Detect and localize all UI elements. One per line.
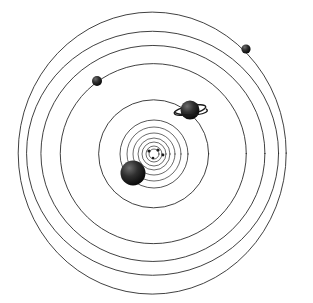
inner-planet-3 bbox=[162, 154, 165, 157]
inner-planet-2 bbox=[156, 148, 159, 151]
solar-system-diagram bbox=[0, 0, 313, 303]
inner-planet-1-body bbox=[147, 149, 150, 152]
uranus bbox=[92, 76, 102, 86]
inner-planet-4 bbox=[152, 157, 155, 160]
neptune-body bbox=[241, 44, 250, 53]
inner-planet-1 bbox=[147, 149, 150, 152]
orbital-diagram-canvas bbox=[0, 0, 313, 303]
jupiter bbox=[121, 161, 146, 186]
inner-planet-3-body bbox=[162, 154, 165, 157]
saturn-body bbox=[181, 101, 200, 120]
inner-planet-2-body bbox=[156, 148, 159, 151]
inner-planet-4-body bbox=[152, 157, 155, 160]
uranus-body bbox=[92, 76, 102, 86]
jupiter-body bbox=[121, 161, 146, 186]
neptune bbox=[241, 44, 250, 53]
